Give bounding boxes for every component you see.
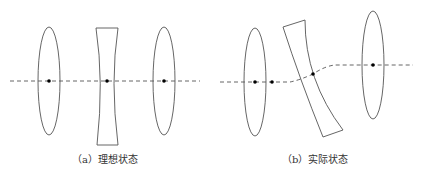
lens-diagram [0,0,421,173]
lens-center-dot [270,80,274,84]
lens-center-dot [253,80,257,84]
panel-b [220,11,413,137]
lens-center-dot [311,72,315,76]
lens-center-dot [47,79,51,83]
lens-center-dot [371,63,375,67]
concave-lens [96,28,118,145]
lens-center-dot [105,79,109,83]
lens-center-dot [162,79,166,83]
tilted-concave-lens [283,20,343,137]
caption-a: （a）理想状态 [72,151,138,166]
panel-a [10,27,200,145]
caption-b: （b）实际状态 [282,151,348,166]
